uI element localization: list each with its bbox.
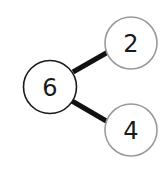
- connector-bottom: [72, 101, 108, 122]
- part-node-bottom: 4: [105, 104, 157, 156]
- whole-node: 6: [24, 61, 77, 114]
- part-node-top: 2: [105, 17, 157, 69]
- whole-label: 6: [42, 74, 57, 102]
- connector-top: [73, 52, 108, 72]
- part-label-bottom: 4: [123, 117, 138, 145]
- part-label-top: 2: [123, 30, 138, 58]
- number-bond-diagram: 6 2 4: [0, 0, 167, 181]
